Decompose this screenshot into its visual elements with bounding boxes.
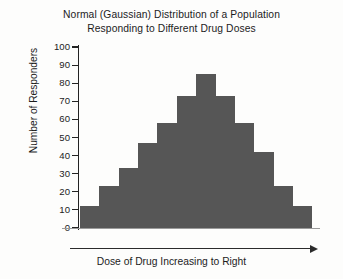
bar-series [80, 47, 312, 228]
y-axis-tick-label: 20 [26, 186, 70, 197]
y-axis-tick [72, 209, 78, 210]
y-axis-tick [72, 83, 78, 84]
bar [177, 96, 197, 228]
y-axis-tick [72, 137, 78, 138]
bar [254, 152, 274, 228]
y-axis-tick [72, 155, 78, 156]
bar [235, 123, 255, 228]
y-axis-tick-label: 30 [26, 168, 70, 179]
y-axis-tick-label: 70 [26, 95, 70, 106]
y-axis-tick-label: 10 [26, 204, 70, 215]
y-axis-tick [72, 101, 78, 102]
y-axis-tick [72, 119, 78, 120]
chart-figure: Normal (Gaussian) Distribution of a Popu… [0, 0, 343, 279]
y-axis-tick [72, 65, 78, 66]
y-axis-tick-label: 40 [26, 150, 70, 161]
y-axis-tick-label: 100 [26, 41, 70, 52]
bar [119, 168, 139, 228]
bar [196, 74, 216, 228]
y-axis-tick-label: 80 [26, 77, 70, 88]
x-axis-label: Dose of Drug Increasing to Right [0, 256, 343, 267]
x-axis-baseline [62, 228, 320, 229]
bar [293, 206, 313, 228]
chart-title-line-2: Responding to Different Drug Doses [0, 22, 343, 36]
bar [99, 186, 119, 228]
y-axis-tick-label: 60 [26, 113, 70, 124]
arrow-shaft [70, 248, 312, 249]
y-axis-tick-label: 50 [26, 132, 70, 143]
bar [80, 206, 100, 228]
y-axis-tick [72, 191, 78, 192]
dose-direction-arrow [70, 244, 318, 253]
bar [273, 186, 293, 228]
bar [157, 123, 177, 228]
chart-title: Normal (Gaussian) Distribution of a Popu… [0, 8, 343, 36]
y-axis-tick [72, 46, 78, 47]
y-axis-tick [72, 173, 78, 174]
bar [215, 96, 235, 228]
chart-title-line-1: Normal (Gaussian) Distribution of a Popu… [0, 8, 343, 22]
arrow-head-icon [310, 245, 318, 253]
bar [138, 143, 158, 228]
y-axis-tick-label: 90 [26, 59, 70, 70]
